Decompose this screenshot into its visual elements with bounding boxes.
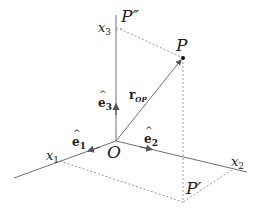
x1-axis-label: x1 <box>46 149 59 165</box>
projection-x1-to-pprime <box>60 161 183 202</box>
e1-label-main: e <box>72 136 80 148</box>
point-p-prime-label: P′ <box>186 180 201 197</box>
x3-label-sub: 3 <box>105 27 111 37</box>
x2-label-sub: 2 <box>238 161 244 171</box>
e2-label-main: e <box>144 133 152 145</box>
x3-axis-label: x3 <box>98 21 111 37</box>
point-p-label: P <box>176 37 187 54</box>
e1-arrow <box>88 147 100 151</box>
e3-label-sub: 3 <box>106 102 112 112</box>
e3-label: e3 <box>98 97 112 112</box>
r-label-sub: OP <box>135 95 146 104</box>
point-p-dot <box>181 56 185 60</box>
coordinate-diagram <box>0 0 258 213</box>
e2-label: e2 <box>144 133 158 148</box>
r-op-label: rOP <box>129 89 147 103</box>
origin-label: O <box>107 144 121 161</box>
e1-label-sub: 1 <box>80 141 86 151</box>
x2-axis <box>116 141 247 172</box>
x1-label-sub: 1 <box>53 155 59 165</box>
point-p-double-prime-label: P″ <box>121 8 139 25</box>
x2-axis-label: x2 <box>231 155 244 171</box>
projection-p-to-pdoubleprime <box>120 29 183 58</box>
e1-label: e1 <box>72 136 86 151</box>
e2-label-sub: 2 <box>152 138 158 148</box>
e3-label-main: e <box>98 97 106 109</box>
x1-axis <box>14 141 116 178</box>
